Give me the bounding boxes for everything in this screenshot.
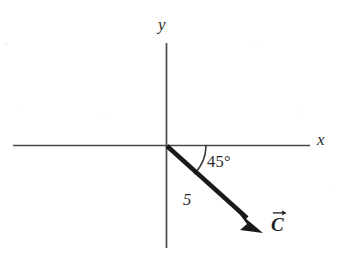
magnitude-label: 5 — [183, 192, 191, 209]
angle-arc — [195, 146, 206, 174]
vector-diagram: y x 45° 5 C — [0, 0, 354, 265]
x-axis-label: x — [317, 131, 325, 148]
vector-label: C — [271, 206, 284, 234]
angle-label: 45° — [207, 154, 231, 171]
vector-label-text: C — [271, 206, 284, 234]
diagram-canvas — [0, 0, 354, 265]
scan-artifacts — [4, 41, 331, 191]
y-axis-label: y — [158, 16, 166, 33]
